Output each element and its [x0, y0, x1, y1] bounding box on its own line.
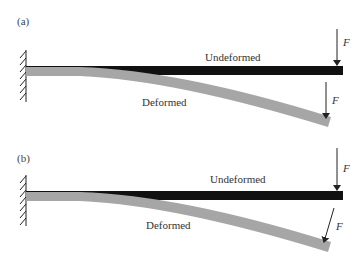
panel-b: (b) Undeformed Deformed F F: [17, 148, 350, 252]
wall-support-icon: [20, 175, 26, 226]
undeformed-label: Undeformed: [205, 51, 261, 63]
deformed-label: Deformed: [142, 96, 187, 108]
force-label-deformed: F: [335, 220, 343, 232]
force-label-undeformed: F: [342, 162, 350, 174]
force-label-undeformed: F: [342, 36, 350, 48]
panel-b-label: (b): [17, 152, 30, 165]
panel-a: (a) Undeformed Deformed F F: [17, 15, 350, 127]
wall-support-icon: [20, 50, 26, 102]
cantilever-diagram: (a) Undeformed Deformed F F (b): [0, 0, 361, 265]
deformed-label: Deformed: [146, 219, 191, 231]
panel-a-label: (a): [17, 15, 30, 28]
force-arrow-deformed: [324, 208, 334, 242]
force-label-deformed: F: [331, 94, 339, 106]
undeformed-label: Undeformed: [210, 173, 266, 185]
